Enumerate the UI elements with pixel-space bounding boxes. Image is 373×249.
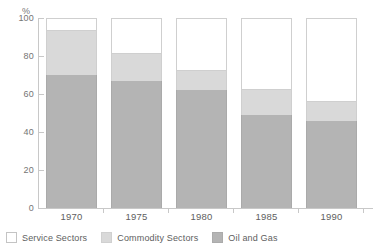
y-tick-label-20: 20 [8,165,34,175]
x-tick-label-1985: 1985 [237,211,297,222]
chart-legend: Service SectorsCommodity SectorsOil and … [6,232,292,243]
x-tick-4 [363,208,364,213]
legend-label: Oil and Gas [228,233,277,243]
bar-1980 [176,18,227,208]
plot-area [38,18,373,208]
segment-commodity-sectors-1985 [241,90,292,115]
legend-label: Service Sectors [22,233,87,243]
segment-service-sectors-1980 [176,18,227,71]
light-gray-square-icon [101,232,112,243]
x-tick-2 [233,208,234,213]
segment-service-sectors-1970 [46,18,97,31]
stacked-bar-chart: % 100 80 60 40 20 0 19701975198019851990… [0,0,373,249]
y-tick-label-40: 40 [8,127,34,137]
x-tick-label-1975: 1975 [107,211,167,222]
segment-service-sectors-1975 [111,18,162,54]
segment-commodity-sectors-1970 [46,31,97,75]
x-tick-label-1990: 1990 [302,211,362,222]
bar-1975 [111,18,162,208]
legend-item-service-sectors[interactable]: Service Sectors [6,232,87,243]
segment-commodity-sectors-1980 [176,71,227,90]
segment-commodity-sectors-1975 [111,54,162,81]
x-axis-line [38,208,373,209]
segment-oil-and-gas-1985 [241,115,292,208]
y-tick-label-60: 60 [8,89,34,99]
segment-service-sectors-1985 [241,18,292,90]
bar-1990 [306,18,357,208]
x-tick-1 [168,208,169,213]
bar-1970 [46,18,97,208]
segment-oil-and-gas-1990 [306,121,357,208]
legend-label: Commodity Sectors [117,233,198,243]
x-tick-3 [298,208,299,213]
segment-oil-and-gas-1970 [46,75,97,208]
legend-item-oil-and-gas[interactable]: Oil and Gas [212,232,277,243]
y-tick-0 [38,208,44,209]
dark-gray-square-icon [212,232,223,243]
y-tick-label-0: 0 [8,203,34,213]
bar-1985 [241,18,292,208]
segment-service-sectors-1990 [306,18,357,102]
x-tick-0 [103,208,104,213]
segment-oil-and-gas-1975 [111,81,162,208]
white-square-icon [6,232,17,243]
x-tick-label-1970: 1970 [42,211,102,222]
y-tick-label-80: 80 [8,51,34,61]
segment-oil-and-gas-1980 [176,90,227,208]
legend-item-commodity-sectors[interactable]: Commodity Sectors [101,232,198,243]
x-tick-label-1980: 1980 [172,211,232,222]
segment-commodity-sectors-1990 [306,102,357,121]
y-tick-label-100: 100 [8,13,34,23]
